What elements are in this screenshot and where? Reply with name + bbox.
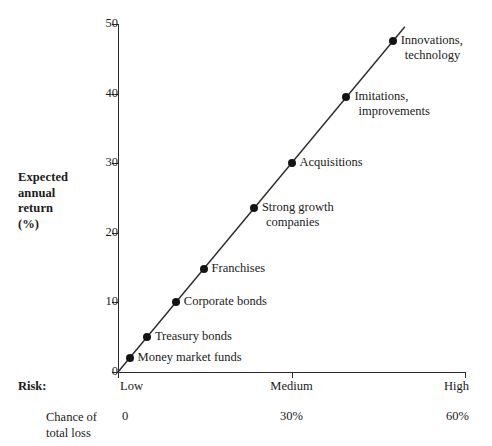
data-point[interactable] xyxy=(250,204,258,212)
data-point[interactable] xyxy=(172,298,180,306)
y-tick-label: 10 xyxy=(92,295,118,308)
chance-value-0: 0 xyxy=(122,409,128,424)
y-tick-label-wrap: 30 xyxy=(78,163,118,164)
data-point-label-line: Franchises xyxy=(212,261,265,276)
y-tick-label-wrap: 10 xyxy=(78,302,118,303)
data-point[interactable] xyxy=(200,265,208,273)
risk-axis-label: Risk: xyxy=(18,379,46,394)
plot-area: 01020304050 Money market fundsTreasury b… xyxy=(0,0,492,446)
data-point-label-line: Strong growth xyxy=(262,200,334,215)
chance-label-line-1: Chance of xyxy=(46,409,97,425)
data-point[interactable] xyxy=(126,354,134,362)
risk-category-medium: Medium xyxy=(270,379,312,394)
data-point-label-line: Imitations, xyxy=(354,89,430,104)
data-point[interactable] xyxy=(288,159,296,167)
data-point-label-line: Money market funds xyxy=(138,350,242,365)
x-tick-mark xyxy=(292,372,293,378)
data-point[interactable] xyxy=(389,37,397,45)
chance-label-line-2: total loss xyxy=(46,425,97,441)
data-point-label: Innovations,technology xyxy=(401,33,463,63)
y-tick-label: 40 xyxy=(92,87,118,100)
data-point-label: Acquisitions xyxy=(300,155,363,170)
y-tick-label: 0 xyxy=(92,365,118,378)
chance-value-2: 60% xyxy=(446,409,469,424)
chance-of-total-loss-label: Chance of total loss xyxy=(46,409,97,441)
risk-category-high: High xyxy=(444,379,469,394)
x-tick-mark xyxy=(118,372,119,378)
y-tick-label: 50 xyxy=(92,17,118,30)
data-point-label-line: Corporate bonds xyxy=(184,294,267,309)
data-point-label: Corporate bonds xyxy=(184,294,267,309)
data-point-label-line: Acquisitions xyxy=(300,155,363,170)
data-point-label-line: companies xyxy=(262,215,334,230)
data-point-label-line: improvements xyxy=(354,104,430,119)
data-point-label: Money market funds xyxy=(138,350,242,365)
y-tick-label: 30 xyxy=(92,156,118,169)
data-point-label-line: technology xyxy=(401,48,463,63)
data-point[interactable] xyxy=(342,93,350,101)
chance-value-1: 30% xyxy=(280,409,303,424)
data-point-label: Imitations,improvements xyxy=(354,89,430,119)
data-point-label-line: Treasury bonds xyxy=(155,329,232,344)
y-axis-line xyxy=(118,24,119,373)
y-tick-label-wrap: 20 xyxy=(78,233,118,234)
trend-line xyxy=(0,0,492,446)
risk-category-low: Low xyxy=(120,379,143,394)
y-tick-label-wrap: 50 xyxy=(78,24,118,25)
data-point-label: Franchises xyxy=(212,261,265,276)
risk-return-chart: Expected annual return (%) 01020304050 M… xyxy=(0,0,492,446)
y-tick-label: 20 xyxy=(92,226,118,239)
data-point-label-line: Innovations, xyxy=(401,33,463,48)
y-tick-label-wrap: 0 xyxy=(78,372,118,373)
x-tick-mark xyxy=(465,372,466,378)
data-point-label: Strong growthcompanies xyxy=(262,200,334,230)
y-tick-label-wrap: 40 xyxy=(78,94,118,95)
data-point[interactable] xyxy=(143,333,151,341)
data-point-label: Treasury bonds xyxy=(155,329,232,344)
